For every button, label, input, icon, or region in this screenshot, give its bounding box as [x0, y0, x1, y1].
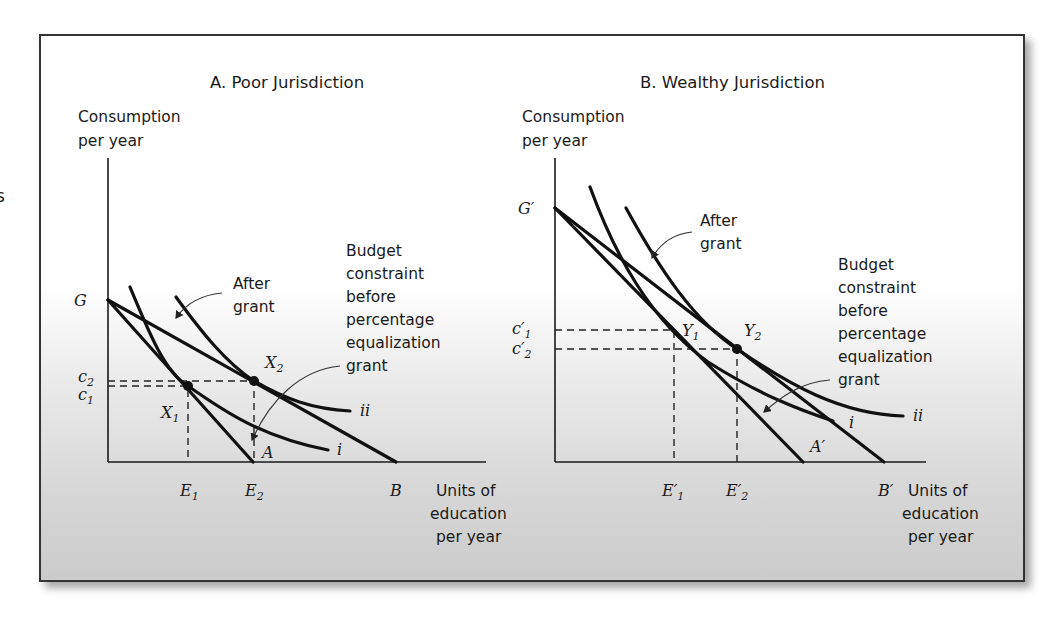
- panel-a-x-axis-label-line3: per year: [436, 528, 502, 546]
- panel-a-label-g: G: [74, 291, 87, 310]
- panel-a-x2-guide: [108, 381, 254, 462]
- panel-b-after-grant-line2: grant: [700, 235, 742, 253]
- svg-text:before: before: [838, 302, 888, 320]
- panel-b-budget-before-note: Budget constraint before percentage equa…: [838, 256, 933, 389]
- svg-text:percentage: percentage: [346, 311, 434, 329]
- panel-a-label-e1: E1: [179, 481, 199, 503]
- panel-a-budget-before-note: Budget constraint before percentage equa…: [346, 242, 441, 375]
- panel-a-x-axis-label-line2: education: [430, 505, 507, 523]
- panel-b-label-c2-prime: c′2: [512, 339, 532, 361]
- panel-b-label-e1-prime: E′1: [661, 481, 684, 503]
- panel-a-label-b: B: [389, 481, 402, 500]
- panel-a-curve-i-label: i: [337, 440, 342, 459]
- panel-a-after-grant-line2: grant: [233, 298, 275, 316]
- panel-a-label-e2: E2: [244, 481, 264, 503]
- panel-b-label-c1-prime: c′1: [512, 319, 532, 341]
- panel-a-after-grant-line1: After: [233, 275, 271, 293]
- panel-a-point-x2: [249, 376, 259, 386]
- panel-b-title: B. Wealthy Jurisdiction: [640, 73, 825, 92]
- panel-b-x-axis-label-line2: education: [902, 505, 979, 523]
- panel-b-y-axis-label-line2: per year: [522, 132, 588, 150]
- panel-a-label-x1: X1: [159, 403, 179, 425]
- panel-b-x-axis-label-line3: per year: [908, 528, 974, 546]
- svg-text:constraint: constraint: [838, 279, 916, 297]
- panel-a-budget-before-pointer: [252, 366, 340, 440]
- panel-b-label-b-prime: B′: [877, 481, 894, 500]
- panel-a-title: A. Poor Jurisdiction: [210, 73, 364, 92]
- svg-text:constraint: constraint: [346, 265, 424, 283]
- svg-text:grant: grant: [838, 371, 880, 389]
- panel-b-curve-i-label: i: [849, 413, 854, 432]
- svg-text:before: before: [346, 288, 396, 306]
- panel-b-label-e2-prime: E′2: [725, 481, 748, 503]
- panel-b-x-axis-label-line1: Units of: [908, 482, 968, 500]
- svg-text:Budget: Budget: [346, 242, 402, 260]
- panel-b-y1-guide: [555, 330, 674, 462]
- panel-b-curve-ii-label: ii: [913, 406, 923, 425]
- panel-b: B. Wealthy Jurisdiction Consumption per …: [512, 73, 979, 546]
- panel-a-y-axis-label-line1: Consumption: [78, 108, 181, 126]
- panel-b-label-y1: Y1: [682, 321, 700, 343]
- svg-text:equalization: equalization: [346, 334, 441, 352]
- panel-b-after-grant-line1: After: [700, 212, 738, 230]
- panel-b-label-y2: Y2: [744, 321, 762, 343]
- panel-b-budget-before-line: [555, 208, 803, 462]
- panel-a-curve-ii-label: ii: [360, 401, 370, 420]
- panel-b-y-axis-label-line1: Consumption: [522, 108, 625, 126]
- svg-text:grant: grant: [346, 357, 388, 375]
- panel-b-label-g-prime: G′: [518, 199, 535, 218]
- panel-a-point-x1: [183, 381, 193, 391]
- panel-a-label-x2: X2: [263, 353, 283, 375]
- svg-text:percentage: percentage: [838, 325, 926, 343]
- panel-a-y-axis-label-line2: per year: [78, 132, 144, 150]
- panel-a: A. Poor Jurisdiction Consumption per yea…: [74, 73, 507, 546]
- panel-b-point-y2: [732, 344, 742, 354]
- panel-b-label-a-prime: A′: [808, 437, 826, 456]
- panel-a-x-axis-label-line1: Units of: [436, 482, 496, 500]
- svg-text:Budget: Budget: [838, 256, 894, 274]
- figure-canvas: A. Poor Jurisdiction Consumption per yea…: [0, 0, 1056, 622]
- panel-a-label-a: A: [260, 443, 274, 462]
- panel-b-after-grant-pointer: [652, 232, 692, 258]
- svg-text:equalization: equalization: [838, 348, 933, 366]
